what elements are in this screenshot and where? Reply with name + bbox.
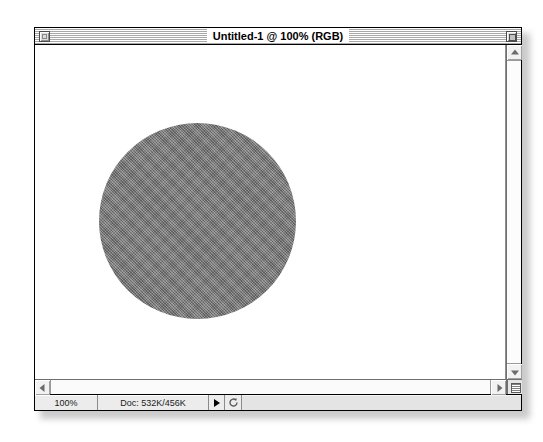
cycle-arrow-svg [228, 397, 239, 408]
up-arrow-glyph [511, 49, 519, 54]
status-menu-triangle-icon[interactable] [209, 395, 225, 410]
zoom-level-field[interactable]: 100% [35, 395, 98, 410]
image-window: Untitled-1 @ 100% (RGB) [34, 27, 522, 411]
scroll-up-arrow-icon[interactable] [507, 45, 522, 60]
scroll-right-arrow-icon[interactable] [491, 380, 506, 395]
window-body [35, 45, 521, 394]
scroll-left-arrow-icon[interactable] [35, 380, 50, 395]
gray-circle-shape [99, 123, 296, 319]
right-arrow-glyph [497, 384, 502, 392]
close-box-icon[interactable] [39, 31, 50, 42]
image-canvas[interactable] [35, 45, 506, 379]
horizontal-scroll-track[interactable] [50, 380, 491, 394]
screen: Untitled-1 @ 100% (RGB) [0, 0, 543, 442]
left-arrow-glyph [39, 384, 44, 392]
status-bar: 100% Doc: 532K/456K [35, 394, 521, 410]
horizontal-scrollbar[interactable] [35, 379, 506, 394]
vertical-scroll-track[interactable] [507, 60, 521, 364]
window-title-label: Untitled-1 @ 100% (RGB) [207, 29, 350, 42]
zoom-box-icon[interactable] [506, 31, 517, 42]
down-arrow-glyph [511, 370, 519, 375]
canvas-column [35, 45, 506, 394]
grow-resize-box-icon[interactable] [507, 379, 522, 394]
window-title: Untitled-1 @ 100% (RGB) [35, 29, 521, 43]
vertical-scrollbar[interactable] [506, 45, 521, 394]
window-title-bar[interactable]: Untitled-1 @ 100% (RGB) [35, 28, 521, 45]
cycle-refresh-icon[interactable] [225, 395, 242, 410]
scroll-down-arrow-icon[interactable] [507, 364, 522, 379]
document-size-field[interactable]: Doc: 532K/456K [98, 395, 209, 410]
status-bar-filler [242, 395, 521, 410]
play-triangle-glyph [214, 399, 220, 407]
